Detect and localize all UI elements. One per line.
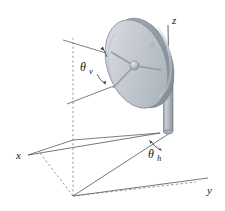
theta-h-symbol: θ <box>148 147 154 161</box>
z-axis-label: z <box>171 14 177 26</box>
theta-h-left-arrowhead <box>149 140 152 144</box>
y-axis-line <box>73 178 208 196</box>
vertical-angle-indicator <box>97 47 107 85</box>
theta-v-symbol: θ <box>80 60 86 74</box>
y-axis-label: y <box>206 184 212 196</box>
theta-v-lower-arc <box>97 74 104 83</box>
theta-h-subscript: h <box>157 153 161 163</box>
x-axis-label: x <box>15 149 21 161</box>
theta-v-label: θ v <box>80 60 93 76</box>
x-to-origin-dashed <box>40 153 73 196</box>
theta-h-right-arrowhead <box>159 148 162 151</box>
elevation-vertical-plane-line <box>73 133 160 140</box>
x-axis-line <box>28 133 160 155</box>
theta-v-subscript: v <box>89 66 93 76</box>
origin-to-post-base-line <box>73 133 170 196</box>
dish-surface-mark <box>150 42 154 48</box>
diagram-canvas: θ v θ h x y z <box>0 0 225 211</box>
vertical-plane-left-edge <box>28 140 73 155</box>
satellite-dish-orientation-figure: θ v θ h x y z <box>0 0 225 211</box>
post-bottom-cap <box>163 130 173 134</box>
dish-feed-horn <box>130 61 139 70</box>
theta-v-upper-arrowhead <box>100 47 104 51</box>
